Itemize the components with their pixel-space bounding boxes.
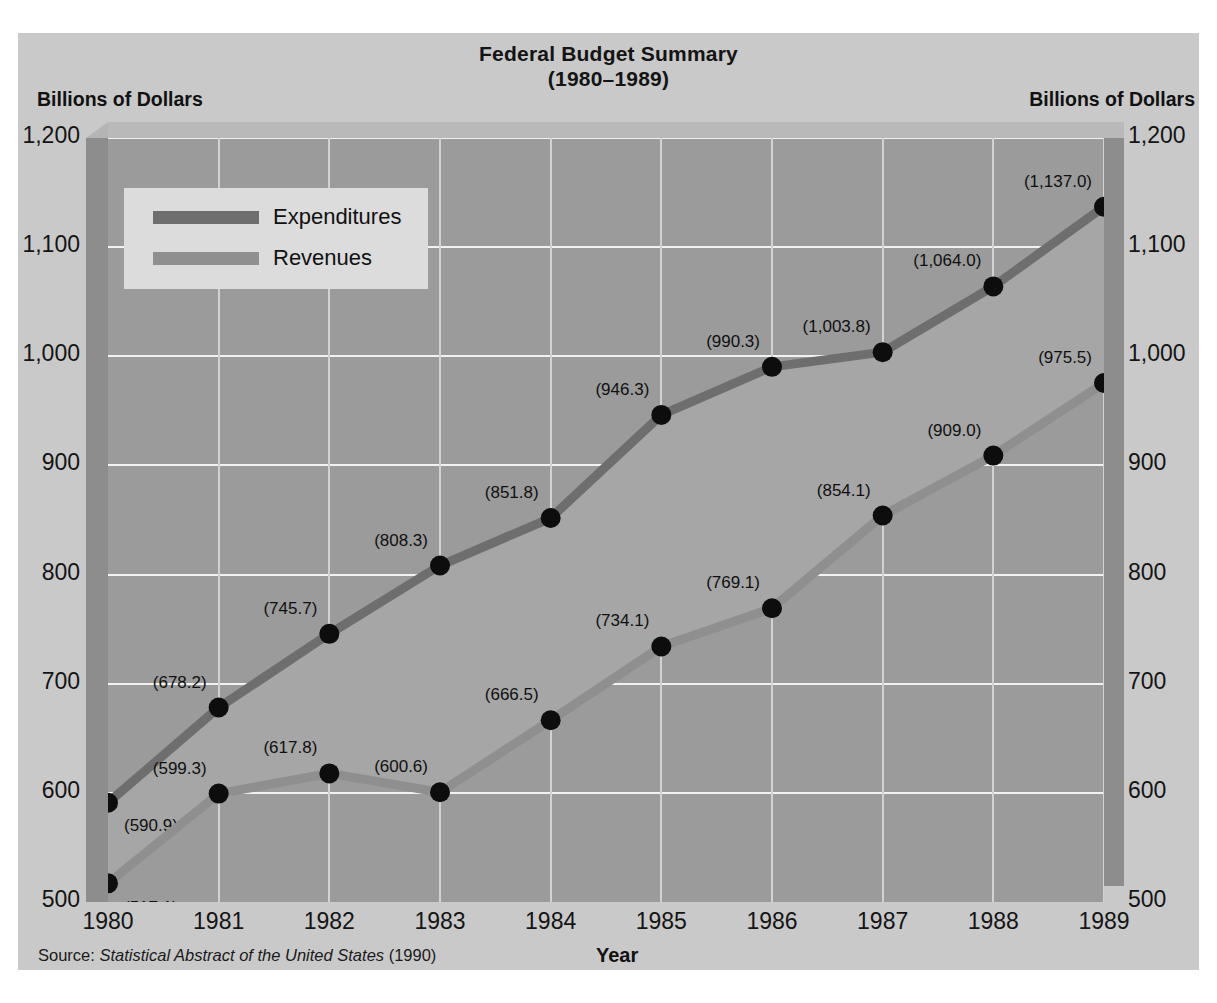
data-point-marker[interactable] [651, 636, 671, 656]
data-point-marker[interactable] [541, 710, 561, 730]
data-point-label: (851.8) [485, 483, 539, 502]
source-title: Statistical Abstract of the United State… [99, 946, 384, 964]
data-point-marker[interactable] [319, 624, 339, 644]
legend-item-expenditures[interactable]: Expenditures [153, 202, 401, 232]
source-suffix: (1990) [384, 946, 436, 964]
data-point-label: (617.8) [263, 738, 317, 757]
data-point-label: (854.1) [817, 481, 871, 500]
data-point-label: (745.7) [263, 599, 317, 618]
x-axis-tick-label: 1981 [174, 908, 264, 935]
chart-page: Federal Budget Summary (1980–1989) Billi… [0, 0, 1217, 1003]
data-point-label: (975.5) [1038, 348, 1092, 367]
data-point-label: (517.1) [124, 898, 178, 902]
data-point-label: (678.2) [153, 673, 207, 692]
plot-top-edge [108, 122, 1102, 138]
x-axis-tick-label: 1987 [838, 908, 928, 935]
x-axis-tick-label: 1986 [727, 908, 817, 935]
data-point-marker[interactable] [983, 276, 1003, 296]
legend: Expenditures Revenues [124, 188, 428, 289]
data-point-label: (1,137.0) [1024, 172, 1092, 191]
data-point-marker[interactable] [651, 405, 671, 425]
data-point-marker[interactable] [873, 342, 893, 362]
y-axis-tick-label: 1,000 [22, 340, 80, 367]
legend-swatch-expenditures [153, 211, 259, 224]
x-axis-title: Year [596, 944, 638, 967]
y-axis-unit-right: Billions of Dollars [1029, 88, 1195, 111]
data-point-marker[interactable] [430, 782, 450, 802]
data-point-label: (1,064.0) [913, 251, 981, 270]
data-point-label: (909.0) [927, 421, 981, 440]
data-point-marker[interactable] [873, 506, 893, 526]
plot-left-wall-bevel [86, 122, 108, 138]
plot-right-wall [1102, 122, 1124, 886]
x-axis-tick-label: 1982 [284, 908, 374, 935]
y-axis-tick-label: 600 [1128, 777, 1166, 804]
plot-right-wall-bevel [1102, 122, 1124, 138]
y-axis-tick-label: 900 [1128, 449, 1166, 476]
plot-left-wall [86, 138, 108, 902]
legend-swatch-revenues [153, 252, 259, 265]
x-axis-tick-label: 1980 [63, 908, 153, 935]
data-point-marker[interactable] [762, 357, 782, 377]
y-axis-tick-label: 1,200 [1128, 122, 1186, 149]
data-point-label: (990.3) [706, 332, 760, 351]
y-axis-tick-label: 900 [42, 449, 80, 476]
x-axis-tick-label: 1983 [395, 908, 485, 935]
source-prefix: Source: [38, 946, 99, 964]
y-axis-tick-label: 1,100 [22, 231, 80, 258]
legend-label-revenues: Revenues [273, 245, 372, 271]
data-point-label: (1,003.8) [803, 317, 871, 336]
y-axis-tick-label: 600 [42, 777, 80, 804]
data-point-marker[interactable] [209, 698, 229, 718]
data-point-label: (734.1) [595, 611, 649, 630]
x-axis-tick-label: 1984 [506, 908, 596, 935]
data-point-label: (946.3) [595, 380, 649, 399]
y-axis-tick-label: 1,200 [22, 122, 80, 149]
y-axis-tick-label: 700 [42, 668, 80, 695]
data-point-marker[interactable] [762, 598, 782, 618]
chart-title: Federal Budget Summary (1980–1989) [0, 41, 1217, 91]
data-point-label: (666.5) [485, 685, 539, 704]
data-point-marker[interactable] [983, 446, 1003, 466]
y-axis-tick-label: 800 [1128, 559, 1166, 586]
data-point-marker[interactable] [541, 508, 561, 528]
x-axis-tick-label: 1985 [616, 908, 706, 935]
data-point-label: (600.6) [374, 757, 428, 776]
data-point-label: (599.3) [153, 759, 207, 778]
legend-label-expenditures: Expenditures [273, 204, 401, 230]
y-axis-tick-label: 800 [42, 559, 80, 586]
data-point-marker[interactable] [430, 556, 450, 576]
x-axis-tick-label: 1989 [1059, 908, 1149, 935]
chart-title-line1: Federal Budget Summary [0, 41, 1217, 66]
data-point-marker[interactable] [209, 784, 229, 804]
y-axis-unit-left: Billions of Dollars [37, 88, 203, 111]
y-axis-tick-label: 700 [1128, 668, 1166, 695]
data-point-label: (769.1) [706, 573, 760, 592]
data-point-label: (808.3) [374, 531, 428, 550]
source-note: Source: Statistical Abstract of the Unit… [38, 946, 436, 965]
y-axis-tick-label: 1,000 [1128, 340, 1186, 367]
y-axis-tick-label: 1,100 [1128, 231, 1186, 258]
data-point-marker[interactable] [319, 763, 339, 783]
legend-item-revenues[interactable]: Revenues [153, 243, 372, 273]
x-axis-tick-label: 1988 [948, 908, 1038, 935]
